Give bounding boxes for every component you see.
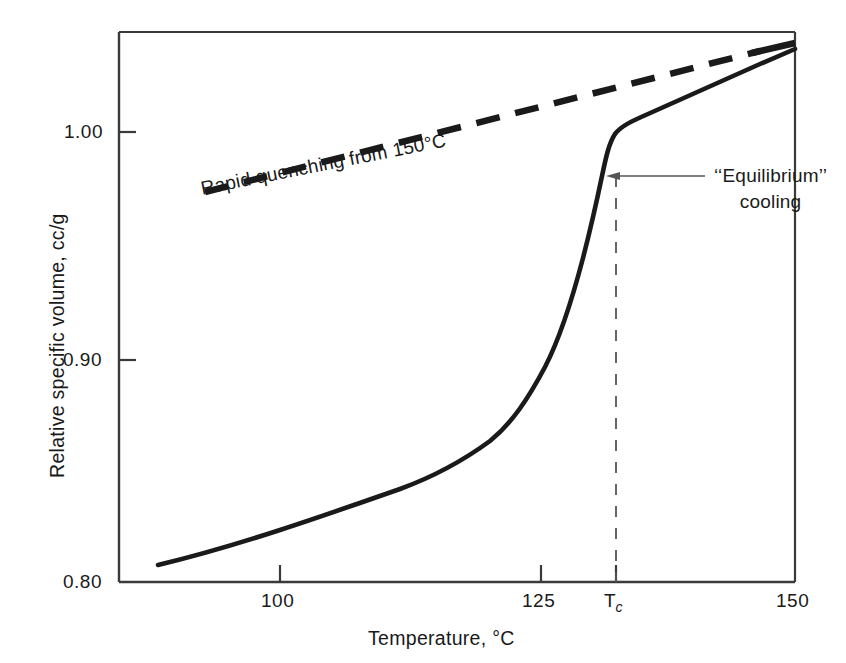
equilibrium-annotation-arrow bbox=[606, 172, 705, 180]
y-tick-label-1.00: 1.00 bbox=[64, 121, 103, 143]
equilibrium-cooling-label-line2: cooling bbox=[714, 189, 827, 215]
x-tick-label-100: 100 bbox=[261, 590, 294, 612]
chart-figure: 1.00 0.90 0.80 100 125 Tc 150 Relative s… bbox=[0, 0, 846, 663]
x-axis-ticks bbox=[280, 565, 616, 582]
y-tick-label-0.80: 0.80 bbox=[63, 571, 102, 593]
equilibrium-cooling-label: ‘‘Equilibrium’’ cooling bbox=[714, 163, 827, 214]
tc-subscript-text: c bbox=[616, 599, 623, 615]
x-tick-label-tc: Tc bbox=[604, 590, 623, 615]
tc-base-text: T bbox=[604, 590, 616, 611]
axis-frame bbox=[119, 32, 795, 582]
equilibrium-cooling-series bbox=[158, 49, 795, 565]
x-axis-title: Temperature, °C bbox=[368, 627, 515, 650]
x-tick-label-125: 125 bbox=[522, 590, 555, 612]
y-axis-title: Relative specific volume, cc/g bbox=[46, 213, 69, 478]
x-tick-label-150: 150 bbox=[776, 590, 809, 612]
y-axis-ticks bbox=[119, 132, 136, 360]
equilibrium-cooling-label-line1: ‘‘Equilibrium’’ bbox=[714, 163, 827, 189]
plot-canvas bbox=[0, 0, 846, 663]
